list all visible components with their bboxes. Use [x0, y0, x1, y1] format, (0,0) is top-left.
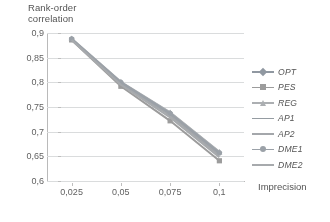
- legend-marker-icon-ap2: [252, 128, 274, 139]
- legend-item-ap2[interactable]: AP2: [252, 126, 328, 142]
- legend-label: PES: [278, 82, 296, 92]
- gridline: [47, 181, 244, 182]
- legend-line: [252, 133, 274, 135]
- chart-legend: OPTPESREGAP1AP2DME1DME2: [252, 64, 328, 173]
- x-axis-title: Imprecision: [258, 181, 307, 192]
- legend-symbol-triangle: [260, 100, 266, 106]
- y-axis-title: Rank-order correlation: [28, 2, 77, 24]
- y-tick-label: 0,6: [31, 176, 44, 186]
- series-line-dme1: [72, 39, 220, 153]
- legend-marker-icon-dme2: [252, 159, 274, 170]
- legend-marker-icon-ap1: [252, 113, 274, 124]
- legend-item-pes[interactable]: PES: [252, 80, 328, 96]
- y-tick-mark: [58, 107, 61, 108]
- y-tick-label: 0,9: [31, 28, 44, 38]
- x-tick-label: 0,025: [60, 187, 83, 197]
- legend-label: REG: [278, 98, 297, 108]
- x-axis-tick-labels: 0,0250,050,0750,1: [47, 183, 244, 203]
- legend-symbol-circle: [260, 146, 266, 152]
- legend-line: [252, 118, 274, 120]
- x-tick-label: 0,075: [159, 187, 182, 197]
- y-tick-label: 0,65: [26, 151, 44, 161]
- plot-area: [47, 33, 244, 181]
- legend-marker-icon-pes: [252, 82, 274, 93]
- legend-label: AP2: [278, 129, 295, 139]
- y-tick-mark: [58, 33, 61, 34]
- legend-item-reg[interactable]: REG: [252, 95, 328, 111]
- y-tick-mark: [58, 58, 61, 59]
- legend-line: [252, 164, 274, 166]
- legend-label: OPT: [278, 67, 296, 77]
- series-layer: [47, 33, 244, 181]
- x-tick-label: 0,05: [112, 187, 130, 197]
- data-point-pes: [217, 158, 222, 163]
- legend-label: AP1: [278, 113, 295, 123]
- y-tick-label: 0,85: [26, 53, 44, 63]
- y-tick-mark: [58, 156, 61, 157]
- x-tick-mark: [170, 183, 171, 186]
- legend-item-ap1[interactable]: AP1: [252, 111, 328, 127]
- y-tick-label: 0,8: [31, 77, 44, 87]
- x-tick-mark: [72, 183, 73, 186]
- legend-marker-icon-dme1: [252, 144, 274, 155]
- legend-label: DME2: [278, 160, 303, 170]
- y-tick-label: 0,75: [26, 102, 44, 112]
- chart-figure: Rank-order correlation 0,90,850,80,750,7…: [0, 0, 330, 222]
- y-tick-mark: [58, 82, 61, 83]
- y-tick-label: 0,7: [31, 127, 44, 137]
- legend-item-dme2[interactable]: DME2: [252, 157, 328, 173]
- legend-label: DME1: [278, 144, 303, 154]
- x-tick-mark: [121, 183, 122, 186]
- x-tick-mark: [219, 183, 220, 186]
- legend-symbol-diamond: [259, 68, 267, 76]
- x-tick-label: 0,1: [213, 187, 226, 197]
- legend-marker-icon-opt: [252, 66, 274, 77]
- y-axis-tick-labels: 0,90,850,80,750,70,650,6: [14, 33, 44, 181]
- legend-marker-icon-reg: [252, 97, 274, 108]
- legend-symbol-square: [260, 84, 266, 90]
- y-tick-mark: [58, 181, 61, 182]
- legend-item-opt[interactable]: OPT: [252, 64, 328, 80]
- y-tick-mark: [58, 132, 61, 133]
- legend-item-dme1[interactable]: DME1: [252, 142, 328, 158]
